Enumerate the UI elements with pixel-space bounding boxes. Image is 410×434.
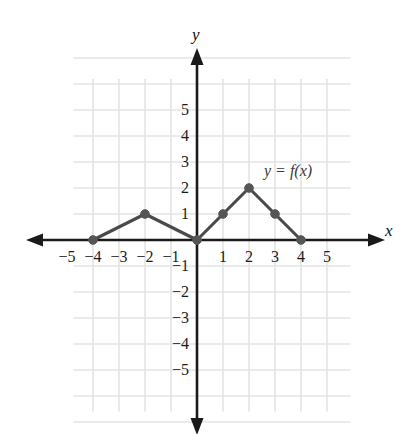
y-tick-label: −5 <box>163 362 189 378</box>
coordinate-plane <box>0 0 410 434</box>
axes <box>26 48 385 434</box>
y-axis-label: y <box>192 26 200 43</box>
y-tick-label: 1 <box>163 206 189 222</box>
x-tick-label: −2 <box>132 249 158 265</box>
y-tick-label: −2 <box>163 284 189 300</box>
y-tick-label: 3 <box>163 154 189 170</box>
y-tick-label: 2 <box>163 180 189 196</box>
x-tick-label: −5 <box>54 249 80 265</box>
y-tick-label: 4 <box>163 128 189 144</box>
y-tick-label: −1 <box>163 258 189 274</box>
x-tick-label: 5 <box>314 249 340 265</box>
graph-figure: y x y = f(x) −5−4−3−2−112345 54321−1−2−3… <box>0 0 410 434</box>
y-tick-label: −4 <box>163 336 189 352</box>
y-tick-label: 5 <box>163 102 189 118</box>
x-tick-label: −4 <box>80 249 106 265</box>
x-tick-label: 4 <box>288 249 314 265</box>
x-tick-label: 3 <box>262 249 288 265</box>
x-tick-label: −3 <box>106 249 132 265</box>
curve-label: y = f(x) <box>264 163 312 179</box>
x-tick-label: 2 <box>236 249 262 265</box>
x-axis-label: x <box>385 222 393 239</box>
x-tick-label: 1 <box>210 249 236 265</box>
y-tick-label: −3 <box>163 310 189 326</box>
